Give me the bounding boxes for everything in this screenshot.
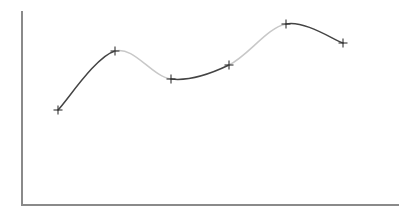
- chart-canvas: [0, 0, 410, 214]
- line-chart: [0, 0, 410, 214]
